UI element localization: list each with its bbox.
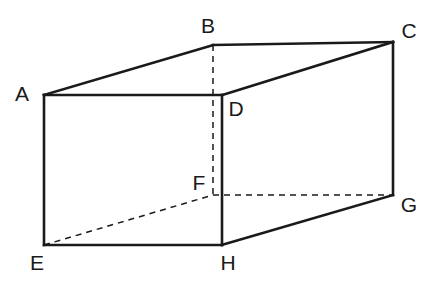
vertex-label-c: C <box>401 19 416 42</box>
vertex-label-d: D <box>228 97 243 120</box>
edge-EF <box>44 195 213 245</box>
vertex-label-e: E <box>30 251 44 274</box>
hidden-edge-group <box>44 45 393 245</box>
edge-CD <box>222 42 393 95</box>
vertex-label-h: H <box>220 251 235 274</box>
edge-GH <box>222 195 393 245</box>
vertex-label-g: G <box>401 193 417 216</box>
vertex-label-a: A <box>15 82 29 105</box>
vertex-label-b: B <box>201 14 215 37</box>
cuboid-diagram: ABCDEFGH <box>0 0 440 281</box>
cuboid-figure: ABCDEFGH <box>0 0 440 281</box>
edge-AB <box>44 45 213 95</box>
visible-edge-group <box>44 42 393 245</box>
vertex-label-f: F <box>193 171 206 194</box>
edge-BC <box>213 42 393 45</box>
